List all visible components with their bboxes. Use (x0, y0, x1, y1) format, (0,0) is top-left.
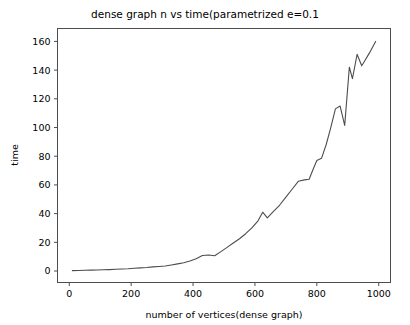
y-axis-title: time (9, 144, 20, 166)
y-tick-label: 140 (32, 65, 50, 76)
line-chart-plot: 020406080100120140160 02004006008001000 … (0, 0, 410, 325)
x-tick-label: 1000 (367, 288, 391, 299)
chart-figure: dense graph n vs time(parametrized e=0.1… (0, 0, 410, 325)
x-axis-ticks: 02004006008001000 (66, 283, 391, 299)
y-axis-ticks: 020406080100120140160 (32, 36, 57, 277)
data-series-time (72, 41, 375, 270)
y-tick-label: 160 (32, 36, 50, 47)
x-tick-label: 800 (308, 288, 326, 299)
x-axis-title: number of vertices(dense graph) (146, 309, 303, 320)
x-tick-label: 600 (246, 288, 264, 299)
plot-frame (58, 29, 391, 283)
x-tick-label: 200 (122, 288, 140, 299)
y-tick-label: 0 (44, 265, 50, 276)
y-tick-label: 80 (38, 151, 50, 162)
y-tick-label: 60 (38, 179, 50, 190)
y-tick-label: 20 (38, 237, 50, 248)
x-tick-label: 0 (66, 288, 72, 299)
y-tick-label: 40 (38, 208, 50, 219)
y-tick-label: 120 (32, 93, 50, 104)
y-tick-label: 100 (32, 122, 50, 133)
x-tick-label: 400 (184, 288, 202, 299)
